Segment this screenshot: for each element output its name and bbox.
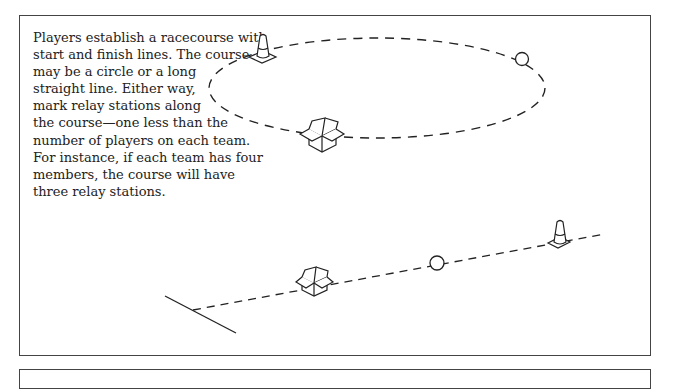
traffic-cone-icon (548, 221, 570, 249)
traffic-cone-icon (249, 35, 276, 64)
ball-icon (430, 256, 444, 270)
box-icon (296, 267, 333, 296)
next-panel (19, 369, 651, 389)
ball-icon (516, 53, 529, 66)
box-icon (300, 118, 344, 152)
start-line (165, 296, 236, 333)
straight-course-path (193, 234, 605, 310)
